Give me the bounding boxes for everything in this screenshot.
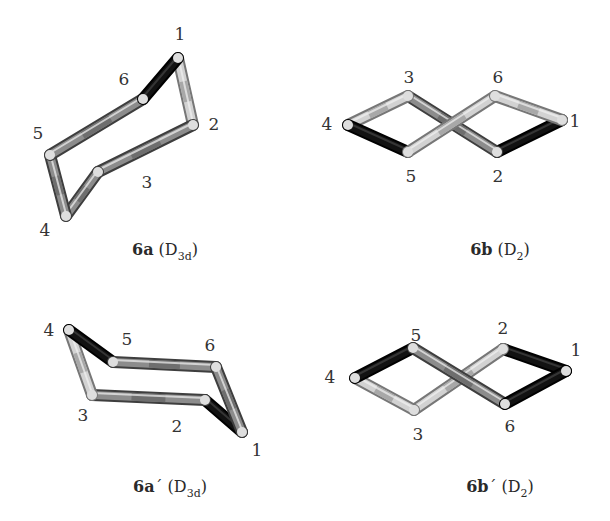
atom-2 <box>498 344 508 354</box>
atom-number-label: 1 <box>175 24 186 44</box>
atom-number-label: 6 <box>493 67 504 87</box>
atom-number-label: 4 <box>40 220 51 240</box>
atom-4 <box>343 120 353 130</box>
atom-number-label: 4 <box>322 114 333 134</box>
bond-highlight <box>348 123 408 150</box>
atom-number-label: 5 <box>411 325 422 345</box>
compound-id: 6b <box>466 477 488 496</box>
atom-number-label: 1 <box>252 440 263 460</box>
atom-number-label: 2 <box>209 114 220 134</box>
point-group-close: ) <box>192 240 198 259</box>
bond-6-1 <box>505 371 566 404</box>
atom-6 <box>138 94 148 104</box>
point-group-subscript: 2 <box>521 487 528 500</box>
atom-number-label: 2 <box>172 416 183 436</box>
bond-highlight <box>505 369 566 402</box>
bond-highlight <box>355 376 414 408</box>
molecule-6b: 1234566b (D2) <box>322 67 581 263</box>
atom-number-label: 5 <box>122 329 133 349</box>
bond-highlight <box>66 170 98 214</box>
atom-5 <box>45 150 55 160</box>
bonds <box>69 328 242 432</box>
bonds <box>348 94 562 152</box>
atom-5 <box>108 357 118 367</box>
atom-1 <box>557 115 567 125</box>
atom-number-label: 3 <box>413 424 424 444</box>
atom-number-label: 3 <box>78 405 89 425</box>
atom-3 <box>403 91 413 101</box>
bond-highlight <box>98 123 193 170</box>
atom-number-label: 1 <box>571 340 582 360</box>
atom-3 <box>93 167 103 177</box>
atom-6 <box>490 91 500 101</box>
atom-number-label: 3 <box>142 172 153 192</box>
atom-4 <box>61 211 71 221</box>
point-group-open: (D <box>496 477 520 496</box>
molecule-6b-prime: 1234566b´ (D2) <box>325 318 582 500</box>
caption-6b-prime: 6b´ (D2) <box>466 477 534 500</box>
panels-layer: 1234566a (D3d)1234566b (D2)1234566a´ (D3… <box>33 24 582 500</box>
atom-number-label: 4 <box>325 367 336 387</box>
point-group-open: (D <box>154 240 178 259</box>
caption-6b: 6b (D2) <box>470 240 530 263</box>
atom-2 <box>492 147 502 157</box>
compound-id: 6b <box>470 240 492 259</box>
molecule-6a: 1234566a (D3d) <box>33 24 220 263</box>
bond-highlight <box>50 97 143 153</box>
bond-highlight <box>143 56 178 97</box>
caption-6a-prime: 6a´ (D3d) <box>133 477 207 500</box>
bond-highlight <box>355 346 413 376</box>
atom-number-label: 1 <box>570 111 581 131</box>
atom-number-label: 5 <box>33 123 44 143</box>
atom-2 <box>188 120 198 130</box>
prime-mark: ´ <box>488 477 496 496</box>
bonds <box>355 346 566 410</box>
atom-number-label: 3 <box>404 67 415 87</box>
atom-1 <box>173 53 183 63</box>
point-group-close: ) <box>524 240 530 259</box>
point-group-open: (D <box>163 477 187 496</box>
caption-6a: 6a (D3d) <box>132 240 198 263</box>
bond-1-2 <box>497 120 562 152</box>
point-group-close: ) <box>201 477 207 496</box>
molecule-6a-prime: 1234566a´ (D3d) <box>44 320 263 500</box>
atom-4 <box>64 325 74 335</box>
atom-3 <box>87 390 97 400</box>
atom-1 <box>237 427 247 437</box>
atom-6 <box>211 362 221 372</box>
point-group-close: ) <box>528 477 534 496</box>
atom-number-label: 6 <box>119 69 130 89</box>
bond-4-5 <box>348 125 408 152</box>
atom-3 <box>409 405 419 415</box>
bond-4-5 <box>355 348 413 378</box>
compound-id: 6a <box>133 477 155 496</box>
atom-number-label: 2 <box>493 166 504 186</box>
point-group-subscript: 2 <box>517 250 524 263</box>
bond-highlight <box>348 94 408 123</box>
conformer-figure: 1234566a (D3d)1234566b (D2)1234566a´ (D3… <box>0 0 610 521</box>
atom-number-label: 6 <box>505 416 516 436</box>
prime-mark: ´ <box>155 477 163 496</box>
point-group-open: (D <box>492 240 516 259</box>
point-group-subscript: 3d <box>178 250 192 263</box>
atom-number-label: 6 <box>205 335 216 355</box>
compound-id: 6a <box>132 240 154 259</box>
bond-1-2 <box>503 349 566 371</box>
bond-highlight <box>495 94 562 118</box>
atom-1 <box>561 366 571 376</box>
atom-number-label: 5 <box>406 166 417 186</box>
atom-6 <box>500 399 510 409</box>
atom-2 <box>200 395 210 405</box>
atom-number-label: 4 <box>44 320 55 340</box>
point-group-subscript: 3d <box>187 487 201 500</box>
bond-6-1 <box>143 58 178 99</box>
atom-5 <box>403 147 413 157</box>
atom-4 <box>350 373 360 383</box>
atom-number-label: 2 <box>498 318 509 338</box>
